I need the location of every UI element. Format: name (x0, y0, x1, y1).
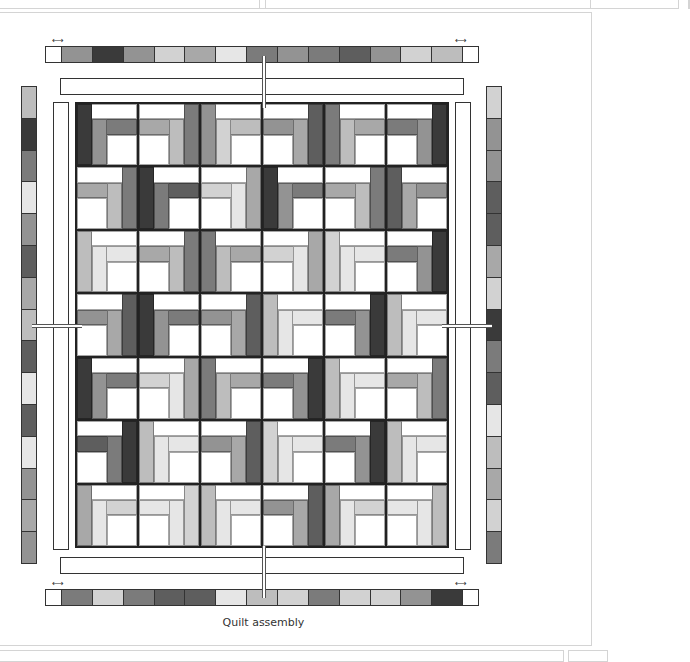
block-log-strip (370, 294, 385, 355)
top-left-panel-frame (0, 0, 260, 9)
block-log-strip (417, 373, 432, 419)
quilt-block (324, 230, 386, 293)
border-square (487, 532, 501, 563)
block-log-strip (169, 119, 184, 165)
quilt-block (324, 293, 386, 356)
border-square (93, 590, 124, 605)
block-center-square (77, 198, 107, 229)
block-center-square (325, 452, 355, 483)
border-square (340, 47, 371, 62)
border-square (432, 590, 463, 605)
block-log-strip (201, 358, 216, 419)
border-square (340, 590, 371, 605)
block-center-square (263, 262, 293, 293)
block-log-strip (154, 183, 169, 229)
border-square (487, 87, 501, 119)
block-log-strip (246, 294, 261, 355)
border-square (309, 590, 340, 605)
block-center-square (387, 135, 417, 166)
block-log-strip (325, 485, 340, 546)
quilt-block (324, 357, 386, 420)
block-log-strip (340, 246, 355, 292)
block-center-square (107, 388, 137, 419)
block-center-square (169, 325, 199, 356)
block-log-strip (107, 310, 122, 356)
quilt-block (138, 293, 200, 356)
block-log-strip (77, 231, 92, 292)
block-log-strip (92, 373, 107, 419)
block-log-strip (340, 373, 355, 419)
block-log-strip (231, 310, 246, 356)
arrow-marker-icon: ⟷ (52, 580, 63, 588)
quilt-block (386, 484, 448, 547)
border-square (124, 590, 155, 605)
block-center-square (417, 452, 447, 483)
block-log-strip (308, 485, 323, 546)
border-square (487, 437, 501, 469)
block-log-strip (308, 358, 323, 419)
block-log-strip (402, 436, 417, 482)
quilt-block (324, 103, 386, 166)
block-log-strip (201, 231, 216, 292)
block-log-strip (184, 231, 199, 292)
block-center-square (107, 135, 137, 166)
block-log-strip (231, 436, 246, 482)
block-log-strip (355, 183, 370, 229)
block-log-strip (92, 119, 107, 165)
block-log-strip (263, 421, 278, 482)
arrow-marker-icon: ⟷ (455, 37, 466, 45)
quilt-block (386, 357, 448, 420)
block-log-strip (293, 500, 308, 546)
quilt-block (200, 103, 262, 166)
border-square (185, 590, 216, 605)
block-log-strip (432, 358, 447, 419)
block-center-square (325, 198, 355, 229)
quilt-block (138, 166, 200, 229)
block-log-strip (263, 294, 278, 355)
block-log-strip (417, 246, 432, 292)
border-square (22, 500, 36, 532)
block-center-square (139, 135, 169, 166)
top-right-panel-frame (265, 0, 591, 9)
block-center-square (169, 198, 199, 229)
block-log-strip (201, 104, 216, 165)
border-square (487, 182, 501, 214)
block-center-square (293, 325, 323, 356)
quilt-block (76, 420, 138, 483)
block-center-square (139, 262, 169, 293)
border-square (22, 437, 36, 469)
block-center-square (293, 452, 323, 483)
quilt-block (76, 357, 138, 420)
quilt-block (262, 166, 324, 229)
border-square (278, 47, 309, 62)
border-square (216, 47, 247, 62)
block-log-strip (77, 358, 92, 419)
quilt-block (138, 357, 200, 420)
border-square (155, 47, 186, 62)
border-square (401, 590, 432, 605)
quilt-center-blocks (75, 102, 449, 548)
border-square (216, 590, 247, 605)
border-square (22, 87, 36, 119)
border-square (487, 151, 501, 183)
block-log-strip (246, 421, 261, 482)
border-square (93, 47, 124, 62)
block-center-square (293, 198, 323, 229)
block-log-strip (325, 104, 340, 165)
block-center-square (139, 515, 169, 546)
border-square (487, 341, 501, 373)
block-log-strip (263, 167, 278, 228)
vertical-assembly-arrow-bottom (262, 546, 266, 598)
block-log-strip (278, 183, 293, 229)
border-square (62, 47, 93, 62)
block-log-strip (278, 436, 293, 482)
block-log-strip (77, 104, 92, 165)
border-square (124, 47, 155, 62)
block-log-strip (432, 231, 447, 292)
bottom-panel-frame (0, 650, 564, 662)
block-log-strip (278, 310, 293, 356)
arrow-marker-icon: ⟷ (52, 37, 63, 45)
quilt-block (200, 293, 262, 356)
block-center-square (201, 325, 231, 356)
block-log-strip (216, 119, 231, 165)
